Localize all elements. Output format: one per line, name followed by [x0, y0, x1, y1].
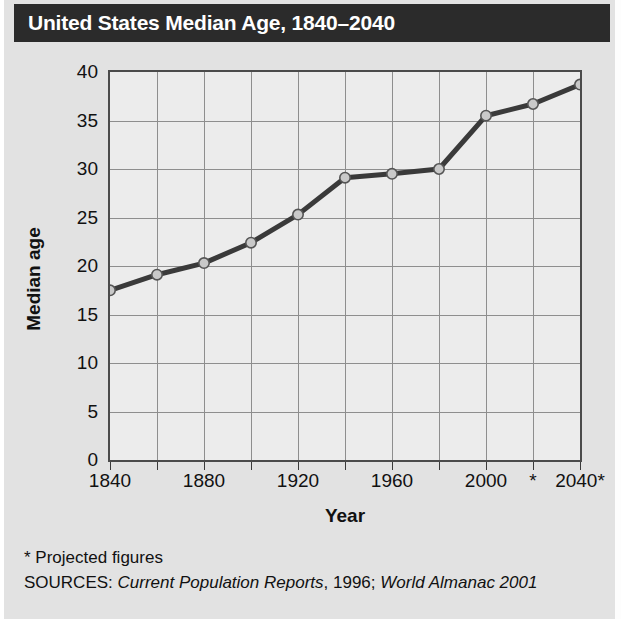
footnotes: * Projected figures SOURCES: Current Pop… — [24, 548, 537, 593]
y-tick-label: 20 — [42, 255, 98, 277]
y-tick-label: 15 — [42, 304, 98, 326]
chart-page: United States Median Age, 1840–2040 0510… — [0, 0, 621, 619]
y-tick-label: 40 — [42, 61, 98, 83]
y-tick-label: 0 — [42, 449, 98, 471]
y-axis-title: Median age — [23, 199, 45, 359]
y-tick-label: 25 — [42, 207, 98, 229]
y-tick-label: 5 — [42, 401, 98, 423]
sources-separator: , 1996; — [324, 573, 381, 592]
x-axis-title: Year — [108, 505, 582, 527]
sources-publication-2: World Almanac 2001 — [380, 573, 537, 592]
chart-title-bar: United States Median Age, 1840–2040 — [14, 4, 610, 42]
y-tick-label: 10 — [42, 352, 98, 374]
sources-publication-1: Current Population Reports — [118, 573, 324, 592]
footnote-sources: SOURCES: Current Population Reports, 199… — [24, 573, 537, 593]
sources-prefix: SOURCES: — [24, 573, 118, 592]
page-title: United States Median Age, 1840–2040 — [28, 11, 395, 35]
y-tick-label: 35 — [42, 110, 98, 132]
y-tick-label: 30 — [42, 158, 98, 180]
footnote-projected: * Projected figures — [24, 548, 537, 568]
